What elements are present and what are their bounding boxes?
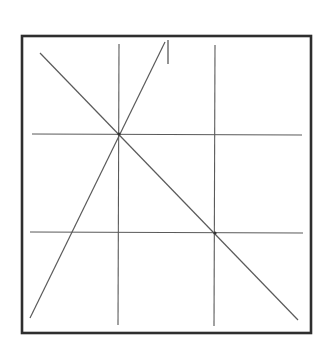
- intersection-point-1: [117, 132, 120, 135]
- geometry-diagram: [0, 0, 332, 352]
- intersection-point-2: [213, 231, 216, 234]
- diagram-background: [0, 0, 332, 352]
